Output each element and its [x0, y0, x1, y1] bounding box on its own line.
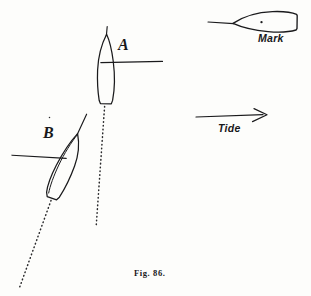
boat-b-mast	[77, 114, 87, 135]
dotted-track-a	[96, 107, 104, 227]
figure-86-diagram: A B Mark Tide Fig. 86.	[0, 0, 311, 296]
tide-label: Tide	[218, 122, 241, 134]
mark-buoy	[208, 12, 297, 33]
boat-a-label: A	[118, 36, 129, 54]
mark-center-dot	[260, 21, 262, 23]
boat-b-ink-speck	[49, 117, 51, 119]
sailboat-a	[97, 27, 162, 104]
tide-arrow	[196, 109, 267, 122]
mark-tether-line	[208, 22, 234, 24]
mark-label: Mark	[258, 32, 284, 44]
diagram-canvas	[0, 0, 311, 296]
dotted-track-b	[19, 201, 51, 290]
mark-body	[233, 12, 297, 33]
boat-b-sail-curve	[49, 135, 78, 194]
boat-b-boom	[12, 155, 66, 158]
tide-arrow-shaft	[196, 115, 263, 117]
boat-b-hull	[47, 134, 79, 200]
boat-a-hull	[97, 34, 114, 104]
boat-a-boom	[101, 61, 163, 62]
figure-caption: Fig. 86.	[134, 268, 165, 278]
boat-b-label: B	[43, 124, 54, 142]
